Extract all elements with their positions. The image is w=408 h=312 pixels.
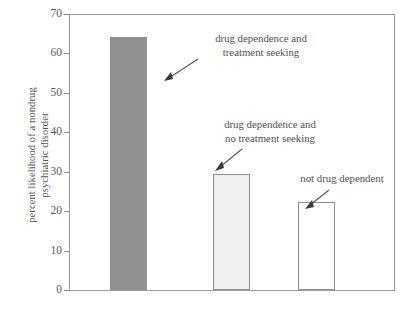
annotation-1-arrow xyxy=(160,55,200,83)
y-tick-label-10: 10 xyxy=(28,245,62,257)
annotation-1-line-2: treatment seeking xyxy=(186,46,336,60)
y-tick-label-50: 50 xyxy=(28,87,62,99)
annotation-3-arrow xyxy=(301,188,333,212)
bar-drug-dependence-no-treatment-seeking xyxy=(213,174,250,290)
bar-chart: percent likelihood of a nondrug psychiat… xyxy=(0,0,408,312)
annotation-3-line-1: not drug dependent xyxy=(282,172,402,186)
y-tick-label-0: 0 xyxy=(28,284,62,296)
y-tick-label-60: 60 xyxy=(28,47,62,59)
annotation-not-drug-dependent: not drug dependent xyxy=(282,172,402,186)
bar-drug-dependence-treatment-seeking xyxy=(110,37,147,290)
y-tick-label-30: 30 xyxy=(28,166,62,178)
y-tick-label-20: 20 xyxy=(28,205,62,217)
annotation-drug-dependence-treatment-seeking: drug dependence and treatment seeking xyxy=(186,32,336,59)
annotation-2-line-2: no treatment seeking xyxy=(191,132,349,146)
annotation-2-line-1: drug dependence and xyxy=(191,118,349,132)
annotation-1-line-1: drug dependence and xyxy=(186,32,336,46)
annotation-2-arrow xyxy=(210,146,246,174)
y-axis-tick-labels: 70 60 50 40 30 20 10 0 xyxy=(26,0,62,312)
y-tick-label-40: 40 xyxy=(28,126,62,138)
bar-not-drug-dependent xyxy=(298,202,335,290)
annotation-drug-dependence-no-treatment-seeking: drug dependence and no treatment seeking xyxy=(191,118,349,145)
y-tick-label-70: 70 xyxy=(28,8,62,20)
